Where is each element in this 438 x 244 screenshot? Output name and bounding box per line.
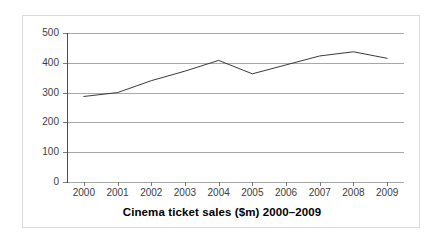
series-line [67, 33, 404, 183]
chart-title: Cinema ticket sales ($m) 2000–2009 [23, 206, 421, 218]
y-axis-label: 200 [23, 117, 59, 127]
y-axis-label: 300 [23, 88, 59, 98]
chart-figure: 0100200300400500 20002001200220032004200… [22, 15, 420, 228]
line-chart: 0100200300400500 20002001200220032004200… [23, 16, 421, 229]
y-axis-label: 400 [23, 58, 59, 68]
plot-area [67, 33, 404, 182]
y-axis-label: 100 [23, 147, 59, 157]
y-axis-label: 500 [23, 28, 59, 38]
y-axis-label: 0 [23, 177, 59, 187]
x-axis-label: 2009 [367, 188, 407, 198]
